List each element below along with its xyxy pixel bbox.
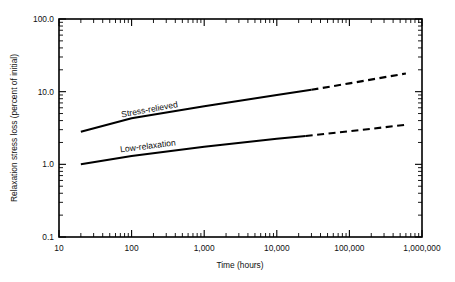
chart-figure: 101001,00010,000100,0001,000,000 0.11.01… (0, 0, 455, 282)
x-tick-label: 1,000,000 (403, 243, 441, 253)
y-tick-label: 0.1 (42, 232, 54, 242)
chart-background (0, 0, 455, 282)
relaxation-loss-log-log-chart: 101001,00010,000100,0001,000,000 0.11.01… (0, 0, 455, 282)
y-tick-label: 100.0 (33, 14, 54, 24)
x-axis-title: Time (hours) (216, 260, 263, 270)
y-tick-label: 10.0 (38, 87, 55, 97)
x-tick-label: 1,000 (194, 243, 215, 253)
x-tick-label: 10,000 (264, 243, 290, 253)
y-axis-title: Relaxation stress loss (percent of initi… (9, 54, 19, 202)
x-tick-label: 100,000 (334, 243, 365, 253)
x-tick-label: 10 (54, 243, 64, 253)
x-tick-label: 100 (125, 243, 139, 253)
y-tick-label: 1.0 (42, 159, 54, 169)
